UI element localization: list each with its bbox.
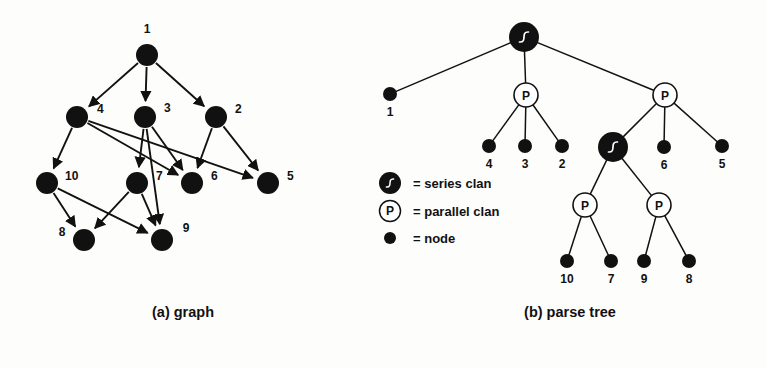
tree-node-L9[interactable]: 9 xyxy=(637,254,651,286)
graph-edge-10-9 xyxy=(58,188,148,233)
tree-leaf-label-L7: 7 xyxy=(608,272,615,286)
tree-edge-S0-P1 xyxy=(524,51,525,84)
graph-node-7[interactable] xyxy=(126,172,148,194)
graph-panel: 14321076589 xyxy=(36,22,294,251)
tree-edge-S1-P3 xyxy=(590,160,607,195)
tree-node-P1[interactable]: P xyxy=(514,83,538,107)
tree-node-P4[interactable]: P xyxy=(647,193,671,217)
tree-edge-S0-P2 xyxy=(537,42,655,90)
graph-edge-1-2 xyxy=(156,63,204,106)
tree-edge-P2-L6 xyxy=(664,106,665,141)
caption-parse-tree: (b) parse tree xyxy=(524,304,616,320)
tree-edge-P1-L4 xyxy=(493,104,520,141)
graph-node-6[interactable] xyxy=(181,172,203,194)
parallel-clan-glyph: P xyxy=(661,89,669,103)
graph-node-4[interactable] xyxy=(66,106,88,128)
legend-label-series-clan-icon: = series clan xyxy=(413,176,491,191)
tree-leaf-label-L1: 1 xyxy=(387,105,394,119)
graph-node-10[interactable] xyxy=(36,172,58,194)
tree-node-L8[interactable]: 8 xyxy=(682,254,696,286)
tree-node-L5[interactable]: 5 xyxy=(715,139,729,171)
graph-edge-3-7 xyxy=(139,129,144,167)
parse-tree-panel: 1PP43265PP10798 xyxy=(383,22,729,286)
graph-node-label-6: 6 xyxy=(211,169,218,183)
tree-node-L4[interactable]: 4 xyxy=(482,139,496,171)
tree-leaf-label-L9: 9 xyxy=(641,272,648,286)
tree-edge-S0-L1 xyxy=(396,42,512,91)
tree-edge-P2-L5 xyxy=(673,102,717,142)
graph-node-8[interactable] xyxy=(73,229,95,251)
graph-node-label-2: 2 xyxy=(235,102,242,116)
tree-edge-P1-L3 xyxy=(525,106,526,140)
tree-node-L10[interactable]: 10 xyxy=(560,254,574,286)
parallel-clan-glyph: P xyxy=(655,199,663,213)
tree-leaf-label-L5: 5 xyxy=(719,157,726,171)
tree-node-L1[interactable]: 1 xyxy=(383,87,397,119)
tree-leaf-label-L2: 2 xyxy=(559,157,566,171)
tree-leaf-label-L3: 3 xyxy=(522,157,529,171)
legend-item-series-clan-icon: = series clan xyxy=(379,172,491,194)
caption-graph: (a) graph xyxy=(152,304,214,320)
legend-label-node-dot-icon: = node xyxy=(413,231,455,246)
graph-edge-1-3 xyxy=(146,67,147,101)
graph-node-2[interactable] xyxy=(205,106,227,128)
graph-node-1[interactable] xyxy=(136,44,158,66)
legend-item-parallel-clan-icon: P= parallel clan xyxy=(380,201,500,222)
legend: = series clanP= parallel clan= node xyxy=(379,172,499,246)
graph-edge-10-8 xyxy=(54,193,76,227)
parallel-clan-glyph: P xyxy=(522,89,530,103)
tree-leaf-label-L8: 8 xyxy=(686,272,693,286)
tree-edge-S1-P4 xyxy=(622,158,652,196)
figure-container: 14321076589 1PP43265PP10798 = series cla… xyxy=(0,0,767,368)
node-dot-icon xyxy=(384,232,396,244)
graph-edge-4-5 xyxy=(88,121,253,178)
tree-node-L6[interactable]: 6 xyxy=(657,140,671,172)
graph-node-label-10: 10 xyxy=(65,169,79,183)
graph-node-label-5: 5 xyxy=(287,169,294,183)
graph-node-label-7: 7 xyxy=(156,169,163,183)
tree-edge-P1-L2 xyxy=(532,104,558,141)
parallel-clan-glyph: P xyxy=(581,199,589,213)
graph-edge-4-6 xyxy=(87,123,178,175)
legend-label-parallel-clan-icon: = parallel clan xyxy=(413,204,499,219)
tree-node-P2[interactable]: P xyxy=(653,83,677,107)
tree-edge-P3-L7 xyxy=(590,215,609,256)
tree-node-S0[interactable] xyxy=(509,22,539,52)
figure-svg: 14321076589 1PP43265PP10798 = series cla… xyxy=(0,0,767,368)
graph-node-5[interactable] xyxy=(257,172,279,194)
graph-edge-2-5 xyxy=(223,126,258,170)
graph-node-label-9: 9 xyxy=(183,221,190,235)
graph-edge-1-4 xyxy=(89,63,138,106)
graph-node-9[interactable] xyxy=(151,229,173,251)
tree-node-L2[interactable]: 2 xyxy=(555,139,569,171)
graph-edge-7-9 xyxy=(142,194,156,225)
tree-node-S1[interactable] xyxy=(598,132,628,162)
tree-edge-P4-L9 xyxy=(646,216,657,256)
parallel-clan-icon: P xyxy=(386,204,394,218)
tree-leaf-label-L10: 10 xyxy=(560,272,574,286)
graph-node-label-1: 1 xyxy=(144,22,151,36)
graph-node-label-3: 3 xyxy=(164,101,171,115)
graph-node-label-4: 4 xyxy=(97,102,104,116)
graph-edge-4-10 xyxy=(54,128,72,169)
graph-node-label-8: 8 xyxy=(59,225,66,239)
tree-node-L3[interactable]: 3 xyxy=(518,139,532,171)
tree-leaf-label-L6: 6 xyxy=(661,158,668,172)
graph-node-3[interactable] xyxy=(134,106,156,128)
legend-item-node-dot-icon: = node xyxy=(384,231,455,246)
tree-node-L7[interactable]: 7 xyxy=(604,254,618,286)
tree-node-P3[interactable]: P xyxy=(573,193,597,217)
tree-edge-P3-L10 xyxy=(569,215,582,255)
tree-leaf-label-L4: 4 xyxy=(486,157,493,171)
tree-edge-P2-S1 xyxy=(623,103,657,137)
tree-edge-P4-L8 xyxy=(664,215,686,256)
